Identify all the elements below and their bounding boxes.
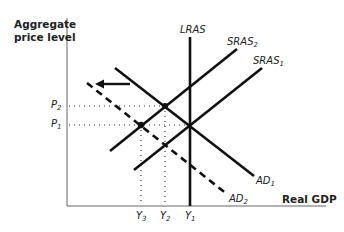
- y2-label-sub: 2: [166, 215, 170, 223]
- sras2-label-sub: 2: [253, 41, 257, 49]
- y1-label-sub: 1: [191, 215, 195, 223]
- y3-label: Y3: [136, 210, 147, 223]
- y2-label: Y2: [160, 210, 171, 223]
- ad2-label-text: AD: [229, 193, 244, 204]
- sras1-label: SRAS1: [253, 55, 284, 68]
- x-axis-title: Real GDP: [282, 193, 337, 206]
- equilibrium-point-short-run: [138, 122, 144, 128]
- y3-label-sub: 3: [142, 215, 146, 223]
- sras2-curve: [110, 49, 237, 151]
- ad2-label: AD2: [229, 193, 248, 206]
- p2-label-sub: 2: [57, 104, 61, 112]
- p1-label-sub: 1: [57, 123, 61, 131]
- y-axis-title-line2: price level: [14, 31, 62, 44]
- lras-label: LRAS: [180, 24, 206, 35]
- sras1-label-text: SRAS: [253, 55, 279, 66]
- equilibrium-point-p2: [162, 103, 168, 109]
- y-axis-title: Aggregate price level: [14, 18, 62, 44]
- ad1-label-text: AD: [256, 175, 271, 186]
- p1-label: P1: [51, 118, 62, 131]
- ad1-label-sub: 1: [271, 180, 275, 188]
- y-axis-title-line1: Aggregate: [14, 18, 62, 31]
- sras1-label-sub: 1: [279, 60, 283, 68]
- p2-label: P2: [51, 99, 62, 112]
- ad1-label: AD1: [256, 175, 275, 188]
- sras2-label-text: SRAS: [227, 36, 253, 47]
- ad2-label-sub: 2: [244, 198, 248, 206]
- sras2-label: SRAS2: [227, 36, 258, 49]
- sras1-curve: [134, 68, 262, 170]
- shift-arrow-head: [95, 80, 104, 89]
- y1-label: Y1: [185, 210, 196, 223]
